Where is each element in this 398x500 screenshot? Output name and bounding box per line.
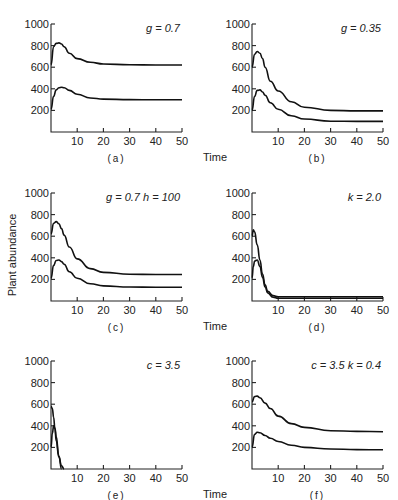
y-tick-label: 800: [31, 377, 49, 389]
panel-caption: (d): [308, 322, 326, 333]
x-axis-title: Time: [203, 488, 227, 500]
axes: [252, 193, 383, 301]
y-tick-label: 200: [232, 441, 250, 453]
x-tick-label: 30: [324, 304, 336, 316]
x-tick-label: 50: [377, 135, 389, 147]
x-tick-label: 30: [324, 472, 336, 484]
x-tick-label: 10: [71, 304, 83, 316]
y-tick-label: 400: [232, 83, 250, 95]
y-tick-label: 600: [232, 230, 250, 242]
y-tick-label: 400: [232, 420, 250, 432]
parameter-annotation: c = 3.5 k = 0.4: [311, 359, 381, 371]
y-tick-label: 600: [232, 398, 250, 410]
x-tick-label: 40: [150, 135, 162, 147]
axes: [252, 24, 383, 132]
series-upper-curve: [51, 43, 182, 65]
x-tick-label: 20: [97, 304, 109, 316]
x-tick-label: 10: [71, 472, 83, 484]
y-tick-label: 400: [31, 420, 49, 432]
panel-f: 20040060080010001020304050c = 3.5 k = 0.…: [203, 355, 389, 500]
x-tick-label: 40: [351, 304, 363, 316]
y-tick-label: 800: [31, 40, 49, 52]
x-tick-label: 30: [123, 135, 135, 147]
y-tick-label: 400: [31, 83, 49, 95]
panel-caption: (c): [108, 322, 126, 333]
x-tick-label: 40: [351, 135, 363, 147]
x-tick-label: 20: [298, 304, 310, 316]
panel-a: 20040060080010001020304050g = 0.7(a): [25, 18, 189, 164]
x-tick-label: 30: [123, 472, 135, 484]
x-axis-title: Time: [203, 151, 227, 163]
x-tick-label: 20: [298, 135, 310, 147]
x-tick-label: 30: [324, 135, 336, 147]
x-tick-label: 10: [71, 135, 83, 147]
x-tick-label: 50: [176, 135, 188, 147]
y-tick-label: 1000: [226, 187, 250, 199]
figure-six-panel-plant-abundance: Plant abundance 200400600800100010203040…: [0, 0, 398, 500]
x-tick-label: 50: [176, 304, 188, 316]
parameter-annotation: c = 3.5: [147, 359, 181, 371]
x-tick-label: 50: [377, 472, 389, 484]
series-lower-curve: [51, 87, 182, 109]
x-tick-label: 40: [150, 304, 162, 316]
y-tick-label: 1000: [25, 355, 49, 367]
parameter-annotation: g = 0.35: [341, 22, 382, 34]
panel-caption: (f): [310, 490, 325, 500]
y-tick-label: 1000: [25, 18, 49, 30]
x-tick-label: 20: [97, 472, 109, 484]
panel-caption: (b): [308, 153, 326, 164]
y-tick-label: 200: [232, 273, 250, 285]
axes: [252, 361, 383, 469]
y-tick-label: 800: [232, 40, 250, 52]
series-upper-curve: [51, 406, 64, 469]
y-tick-label: 200: [31, 273, 49, 285]
panel-caption: (a): [107, 153, 125, 164]
y-tick-label: 400: [31, 252, 49, 264]
panel-d: 20040060080010001020304050k = 2.0(d)Time: [203, 187, 389, 333]
y-tick-label: 600: [232, 61, 250, 73]
series-lower-curve: [252, 90, 383, 122]
axes: [51, 361, 182, 469]
panel-e: 20040060080010001020304050c = 3.5(e): [25, 355, 189, 500]
y-tick-label: 800: [232, 377, 250, 389]
series-upper-curve: [51, 222, 182, 275]
x-axis-title: Time: [203, 320, 227, 332]
y-tick-label: 600: [31, 230, 49, 242]
y-axis-title: Plant abundance: [6, 214, 18, 297]
series-upper-curve: [252, 230, 383, 297]
y-tick-label: 200: [31, 104, 49, 116]
x-tick-label: 20: [97, 135, 109, 147]
panel-c: 20040060080010001020304050g = 0.7 h = 10…: [25, 187, 189, 333]
x-tick-label: 10: [272, 135, 284, 147]
x-tick-label: 30: [123, 304, 135, 316]
panel-b: 20040060080010001020304050g = 0.35(b)Tim…: [203, 18, 389, 164]
x-tick-label: 50: [377, 304, 389, 316]
x-tick-label: 20: [298, 472, 310, 484]
parameter-annotation: g = 0.7: [146, 22, 181, 34]
x-tick-label: 10: [272, 304, 284, 316]
y-tick-label: 1000: [226, 355, 250, 367]
series-lower-curve: [252, 432, 383, 450]
x-tick-label: 10: [272, 472, 284, 484]
parameter-annotation: k = 2.0: [348, 191, 382, 203]
panel-caption: (e): [107, 490, 125, 500]
series-lower-curve: [252, 260, 383, 298]
parameter-annotation: g = 0.7 h = 100: [106, 191, 181, 203]
y-tick-label: 200: [31, 441, 49, 453]
x-tick-label: 50: [176, 472, 188, 484]
y-tick-label: 1000: [25, 187, 49, 199]
y-tick-label: 400: [232, 252, 250, 264]
y-tick-label: 800: [232, 209, 250, 221]
x-tick-label: 40: [150, 472, 162, 484]
series-upper-curve: [252, 396, 383, 432]
y-tick-label: 600: [31, 61, 49, 73]
x-tick-label: 40: [351, 472, 363, 484]
y-tick-label: 1000: [226, 18, 250, 30]
y-tick-label: 800: [31, 209, 49, 221]
y-tick-label: 200: [232, 104, 250, 116]
axes: [51, 24, 182, 132]
y-tick-label: 600: [31, 398, 49, 410]
series-upper-curve: [252, 52, 383, 111]
